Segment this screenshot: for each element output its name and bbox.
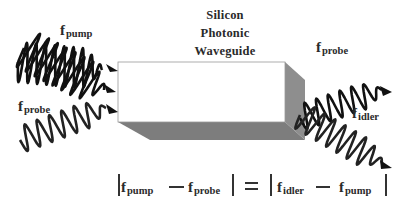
waveguide-front-face (118, 62, 285, 122)
title-line-2: Photonic (140, 26, 310, 41)
minus-sign (316, 186, 330, 188)
label-subscript: probe (322, 45, 348, 56)
title-line-1: Silicon (140, 8, 310, 23)
abs-bar (385, 174, 387, 196)
label-subscript: probe (24, 104, 50, 115)
title-line-3: Waveguide (140, 44, 310, 59)
abs-bar (118, 174, 120, 196)
arrow-icon (106, 104, 118, 114)
label-symbol: f (352, 105, 357, 121)
label-subscript: pump (66, 28, 92, 39)
eq-symbol: f (277, 179, 282, 195)
equals-sign-top (245, 182, 258, 184)
arrow-icon (106, 64, 118, 72)
label-symbol: f (60, 22, 65, 38)
label-symbol: f (316, 39, 321, 55)
eq-term-probe: fprobe (188, 180, 220, 195)
pump-wave-in (17, 34, 104, 99)
arrow-icon (104, 84, 116, 93)
eq-symbol: f (188, 179, 193, 195)
label-symbol: f (18, 98, 23, 114)
arrow-icon (380, 86, 392, 96)
label-subscript: idler (358, 111, 379, 122)
minus-sign (169, 186, 184, 188)
label-pump-in: fpump (60, 23, 92, 38)
arrow-icon (380, 160, 392, 169)
eq-symbol: f (339, 179, 344, 195)
label-idler-out: fidler (352, 106, 379, 121)
eq-subscript: probe (194, 185, 220, 196)
eq-symbol: f (121, 179, 126, 195)
eq-term-idler: fidler (277, 180, 304, 195)
equals-sign-bottom (245, 188, 258, 190)
eq-term-pump: fpump (121, 180, 153, 195)
eq-subscript: pump (345, 185, 371, 196)
eq-subscript: idler (283, 185, 304, 196)
label-probe-in: fprobe (18, 99, 50, 114)
label-probe-out: fprobe (316, 40, 348, 55)
abs-bar (270, 174, 272, 196)
eq-term-pump-rhs: fpump (339, 180, 371, 195)
waveguide-bottom-face (118, 122, 305, 140)
waveguide-box (118, 62, 305, 140)
abs-bar (232, 174, 234, 196)
eq-subscript: pump (127, 185, 153, 196)
